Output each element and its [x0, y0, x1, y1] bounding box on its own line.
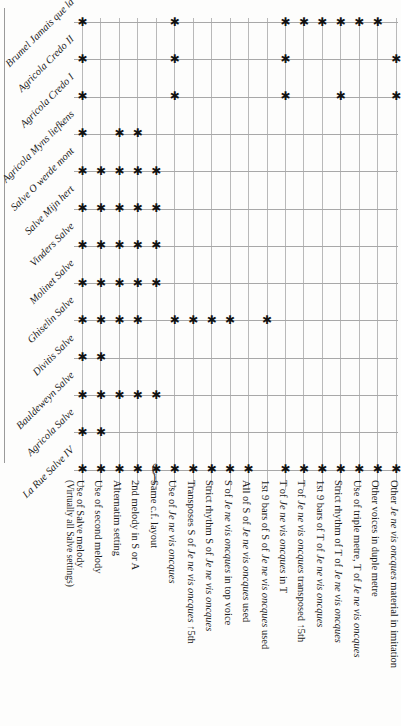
column-label-use-of-salve-melody: Use of Salve melody(Virtually all Salve … — [65, 480, 86, 587]
column-label-text: 2nd melody in S or A — [130, 480, 141, 570]
column-label-text: Strict rhythm of T of Je ne vis oncques — [333, 480, 344, 643]
column-label-s-of-jnvo-in-top-voice: S of Je ne vis oncques in top voice — [223, 480, 234, 625]
column-label-text: Other voices in duple metre — [370, 480, 381, 597]
column-label-group: Use of Salve melody(Virtually all Salve … — [0, 0, 401, 726]
column-label-text: Transposes S of Je ne vis oncques ↑5th — [186, 480, 197, 644]
column-label-other-jnvo-material-imitation: Other Je ne vis oncques material in imit… — [389, 480, 400, 668]
column-label-text: S of Je ne vis oncques in top voice — [223, 480, 234, 625]
matrix-figure: Brumel Jamais que laAgricola Credo IIAgr… — [0, 0, 401, 726]
column-label-text: Other Je ne vis oncques material in imit… — [389, 480, 400, 668]
column-label-text: T of Je ne vis oncques in T — [278, 480, 289, 593]
column-label-text: Strict rhythm S of Je ne vis oncques — [204, 480, 215, 631]
column-label-use-of-triple-metre-t-of-jnvo: Use of triple metre, T of Je ne vis oncq… — [352, 480, 363, 657]
column-label-text: Same c.f. layout — [149, 480, 160, 548]
column-label-text: 1st 9 bars of S of Je ne vis oncques use… — [260, 480, 271, 649]
column-label-use-of-second-melody: Use of second melody — [93, 480, 104, 574]
column-label-text: Use of second melody — [93, 480, 104, 574]
column-label-all-of-s-of-jnvo-used: All of S of Je ne vis oncques used — [241, 480, 252, 622]
column-label-strict-rhythm-s-of-jnvo: Strict rhythm S of Je ne vis oncques — [204, 480, 215, 631]
column-label-text: 1st 9 bars of T of Je ne vis oncques — [315, 480, 326, 627]
column-label-same-cf-layout: Same c.f. layout — [149, 480, 160, 548]
column-label-other-voices-duple-metre: Other voices in duple metre — [370, 480, 381, 597]
column-label-text: Alternatim setting — [112, 480, 123, 556]
column-label-transposes-s-of-jnvo-5th: Transposes S of Je ne vis oncques ↑5th — [186, 480, 197, 644]
column-label-text: Use of triple metre, T of Je ne vis oncq… — [352, 480, 363, 657]
column-label-subtext: (Virtually all Salve settings) — [65, 480, 75, 587]
column-label-text: All of S of Je ne vis oncques used — [241, 480, 252, 622]
column-label-text: Use of Je ne vis oncques — [167, 480, 178, 584]
column-label-first-9-bars-of-t-of-jnvo: 1st 9 bars of T of Je ne vis oncques — [315, 480, 326, 627]
column-label-t-of-jnvo-in-t: T of Je ne vis oncques in T — [278, 480, 289, 593]
column-label-text: Use of Salve melody — [75, 480, 86, 568]
column-label-alternatim-setting: Alternatim setting — [112, 480, 123, 556]
column-label-strict-rhythm-of-t-of-jnvo: Strict rhythm of T of Je ne vis oncques — [333, 480, 344, 643]
column-label-text: T of Je ne vis oncques transposed ↑5th — [296, 480, 307, 642]
column-label-2nd-melody-in-s-or-a: 2nd melody in S or A — [130, 480, 141, 570]
column-label-use-of-jnvo: Use of Je ne vis oncques — [167, 480, 178, 584]
column-label-first-9-bars-of-s-of-jnvo-used: 1st 9 bars of S of Je ne vis oncques use… — [260, 480, 271, 649]
column-label-t-of-jnvo-transposed-5th: T of Je ne vis oncques transposed ↑5th — [296, 480, 307, 642]
